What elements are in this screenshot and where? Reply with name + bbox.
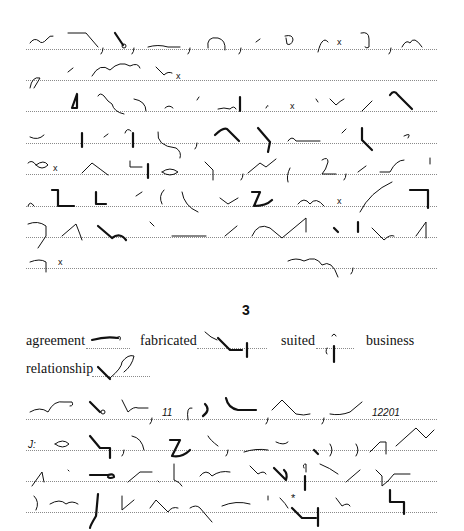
shorthand-outlines-lower [0,0,464,531]
